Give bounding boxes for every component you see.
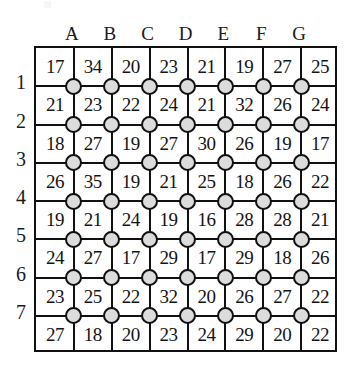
grid-node-circle[interactable] xyxy=(103,231,120,248)
column-header-g: G xyxy=(285,24,313,43)
grid-node-circle[interactable] xyxy=(65,231,82,248)
grid-node-circle[interactable] xyxy=(103,193,120,210)
grid-node-circle[interactable] xyxy=(293,78,310,95)
grid-node-circle[interactable] xyxy=(179,193,196,210)
puzzle-figure: ABCDEFG 1234567 173420232119272521232224… xyxy=(0,0,356,373)
row-label-1: 1 xyxy=(10,72,32,92)
column-header-c: C xyxy=(134,24,162,43)
column-header-f: F xyxy=(247,24,275,43)
grid-node-circle[interactable] xyxy=(293,116,310,133)
grid-node-circle[interactable] xyxy=(65,193,82,210)
grid-node-circle[interactable] xyxy=(217,154,234,171)
row-label-2: 2 xyxy=(10,111,32,131)
grid-node-circle[interactable] xyxy=(141,231,158,248)
row-label-3: 3 xyxy=(10,149,32,169)
column-header-a: A xyxy=(58,24,86,43)
row-label-4: 4 xyxy=(10,187,32,207)
grid-node-circle[interactable] xyxy=(217,193,234,210)
grid-node-circle[interactable] xyxy=(65,78,82,95)
grid-node-circle[interactable] xyxy=(217,116,234,133)
grid-node-circle[interactable] xyxy=(255,307,272,324)
grid-node-circle[interactable] xyxy=(217,231,234,248)
column-header-b: B xyxy=(96,24,124,43)
grid-node-circle[interactable] xyxy=(293,231,310,248)
grid-node-circle[interactable] xyxy=(255,231,272,248)
row-label-6: 6 xyxy=(10,264,32,284)
grid-node-circle[interactable] xyxy=(179,116,196,133)
grid-node-circle[interactable] xyxy=(255,78,272,95)
grid-node-circle[interactable] xyxy=(179,78,196,95)
grid-node-circle[interactable] xyxy=(255,193,272,210)
grid-node-circle[interactable] xyxy=(141,116,158,133)
column-header-e: E xyxy=(209,24,237,43)
grid-node-circle[interactable] xyxy=(217,78,234,95)
grid-node-circle[interactable] xyxy=(141,193,158,210)
grid-node-circle[interactable] xyxy=(293,193,310,210)
grid-node-circle[interactable] xyxy=(217,269,234,286)
grid-node-circle[interactable] xyxy=(255,116,272,133)
row-label-5: 5 xyxy=(10,225,32,245)
grid-node-circle[interactable] xyxy=(293,307,310,324)
row-label-7: 7 xyxy=(10,302,32,322)
grid-node-circle[interactable] xyxy=(141,78,158,95)
grid-node-circle[interactable] xyxy=(293,154,310,171)
column-header-d: D xyxy=(172,24,200,43)
grid-node-circle[interactable] xyxy=(179,231,196,248)
scan-artifact xyxy=(44,1,51,8)
grid-node-circle[interactable] xyxy=(293,269,310,286)
grid-node-circle[interactable] xyxy=(217,307,234,324)
grid-node-circle[interactable] xyxy=(103,78,120,95)
grid-node-circle[interactable] xyxy=(141,269,158,286)
grid-node-circle[interactable] xyxy=(255,269,272,286)
grid-node-circle[interactable] xyxy=(255,154,272,171)
grid-node-circle[interactable] xyxy=(179,269,196,286)
puzzle-grid: 1734202321192725212322242132262418271927… xyxy=(34,46,337,352)
